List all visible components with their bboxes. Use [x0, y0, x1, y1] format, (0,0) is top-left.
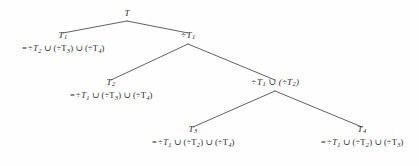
tree-node-t3-label: T3: [151, 124, 234, 136]
t2-union-1: ∪: [91, 90, 99, 100]
tree-node-root: T: [124, 8, 129, 18]
t4-union-2: ∪: [374, 137, 382, 147]
edge-union-to-t4: [275, 91, 362, 127]
tree-node-t2-expression: =÷T1 ∪ (÷T3) ∪ (÷T4): [69, 90, 152, 102]
t3-union-2: ∪: [205, 137, 213, 147]
tree-node-not-t1-union-not-t2: ÷T1 ∪ (÷T2): [251, 77, 299, 89]
tree-node-not-t1-label: ÷T1: [180, 30, 195, 42]
t1-term2-open: (÷T: [53, 43, 66, 53]
t3-term1-var: T: [163, 137, 168, 147]
t2-term1-sub: 1: [86, 94, 90, 101]
tree-node-root-label: T: [124, 8, 129, 18]
t2-term3-close: ): [150, 90, 153, 100]
tree-node-t3-subscript: 3: [194, 127, 198, 134]
tree-node-not-t1-union-not-t2-label: ÷T1 ∪ (÷T2): [251, 77, 299, 89]
tree-node-t1: T1 =÷T2 ∪ (÷T3) ∪ (÷T4): [21, 30, 104, 56]
t1-union-2: ∪: [75, 43, 83, 53]
t4-term3-close: ): [401, 137, 404, 147]
t1-union-1: ∪: [43, 43, 51, 53]
t2-term3-open: (÷T: [133, 90, 146, 100]
tree-node-t4-label: T4: [320, 124, 403, 136]
edge-not-t1-to-t2: [111, 44, 188, 80]
tree-diagram: T T1 =÷T2 ∪ (÷T3) ∪ (÷T4) ÷T1 T2 =÷T1 ∪ …: [0, 0, 419, 166]
tree-node-t1-expression: =÷T2 ∪ (÷T3) ∪ (÷T4): [21, 43, 104, 55]
union-node-sub-1: 1: [262, 80, 266, 87]
t3-term2-close: ): [200, 137, 203, 147]
tree-node-t1-subscript: 1: [64, 33, 68, 40]
tree-node-t3-expression: =÷T1 ∪ (÷T2) ∪ (÷T4): [151, 137, 234, 149]
t4-term1-var: T: [332, 137, 337, 147]
t4-term2-close: ): [369, 137, 372, 147]
t4-term2-open: (÷T: [352, 137, 365, 147]
t3-term3-open: (÷T: [215, 137, 228, 147]
t4-union-1: ∪: [342, 137, 350, 147]
edge-union-to-t3: [193, 91, 275, 127]
t1-term1-var: T: [33, 43, 38, 53]
tree-node-t1-label: T1: [21, 30, 104, 42]
union-node-term2-close: ): [296, 77, 299, 87]
t3-term2-open: (÷T: [183, 137, 196, 147]
union-node-term2-open: (÷T: [279, 77, 293, 87]
t2-union-2: ∪: [123, 90, 131, 100]
t1-term1-sub: 2: [38, 47, 42, 54]
t4-term1-sub: 1: [337, 141, 341, 148]
t2-term2-open: (÷T: [101, 90, 114, 100]
tree-node-t4-expression: =÷T1 ∪ (÷T2) ∪ (÷T3): [320, 137, 403, 149]
t4-term3-open: (÷T: [384, 137, 397, 147]
edge-not-t1-to-union: [188, 44, 275, 80]
t1-term3-close: ): [102, 43, 105, 53]
tree-node-t4-subscript: 4: [363, 127, 367, 134]
t2-term2-close: ): [118, 90, 121, 100]
tree-node-t3: T3 =÷T1 ∪ (÷T2) ∪ (÷T4): [151, 124, 234, 150]
t1-term3-open: (÷T: [85, 43, 98, 53]
tree-node-t4: T4 =÷T1 ∪ (÷T2) ∪ (÷T3): [320, 124, 403, 150]
tree-node-t2-label: T2: [69, 77, 152, 89]
tree-node-t2: T2 =÷T1 ∪ (÷T3) ∪ (÷T4): [69, 77, 152, 103]
t3-term1-sub: 1: [168, 141, 172, 148]
t2-term1-var: T: [81, 90, 86, 100]
t3-union-1: ∪: [173, 137, 181, 147]
edge-root-to-not-t1: [127, 21, 188, 33]
t3-term3-close: ): [232, 137, 235, 147]
tree-node-t2-subscript: 2: [112, 80, 116, 87]
union-node-union: ∪: [268, 77, 277, 87]
not-t1-subscript: 1: [192, 33, 196, 40]
tree-node-not-t1: ÷T1: [180, 30, 195, 42]
t1-term2-close: ): [70, 43, 73, 53]
